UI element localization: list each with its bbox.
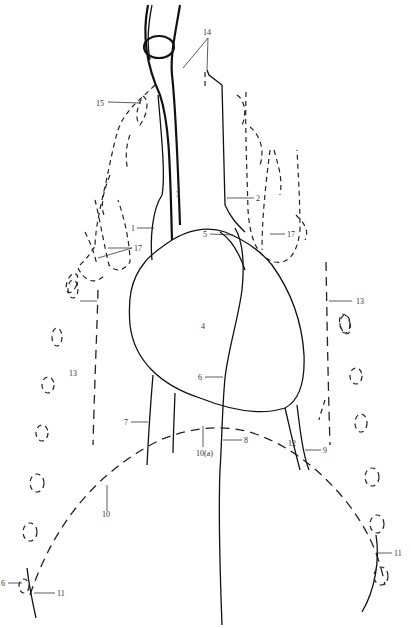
label-8: 8: [244, 436, 248, 445]
label-13-left: 13: [69, 369, 77, 378]
diagram-labels: 1 2 3 4 5 6 6 7 8 9 10 10(a) 11 11 12 13…: [1, 28, 402, 598]
septum-line: [219, 228, 243, 625]
label-3: 3: [176, 190, 180, 199]
heart-outline: [129, 229, 304, 412]
label-7: 7: [124, 418, 128, 427]
lymph-node-chains: [64, 85, 353, 335]
label-13-right: 13: [356, 297, 364, 306]
label-6-left: 6: [1, 579, 5, 588]
left-pleural-line: [93, 290, 98, 445]
label-9: 9: [323, 446, 327, 455]
great-vessels: [144, 5, 245, 260]
label-12: 12: [288, 439, 296, 448]
label-10a: 10(a): [196, 449, 213, 458]
label-5: 5: [203, 230, 207, 239]
label-10: 10: [102, 510, 110, 519]
label-2: 2: [256, 194, 260, 203]
label-4: 4: [201, 322, 205, 331]
label-17-right: 17: [287, 230, 295, 239]
label-1: 1: [131, 224, 135, 233]
label-14: 14: [203, 28, 211, 37]
label-17-left: 17: [134, 244, 142, 253]
label-11-right: 11: [394, 549, 402, 558]
label-15: 15: [96, 99, 104, 108]
anatomical-diagram: 1 2 3 4 5 6 6 7 8 9 10 10(a) 11 11 12 13…: [0, 0, 411, 628]
right-pleural-line: [326, 262, 330, 445]
leader-lines: [8, 38, 392, 593]
label-11-left: 11: [57, 589, 65, 598]
label-6-heart: 6: [198, 373, 202, 382]
